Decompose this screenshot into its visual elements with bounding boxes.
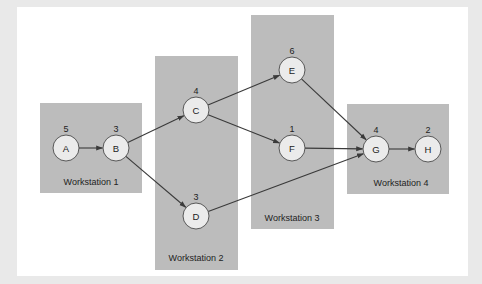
workstation-label: Workstation 3 [265, 213, 320, 223]
node-label: F [289, 143, 295, 154]
edge-F-G [305, 148, 363, 149]
task-time: 6 [289, 46, 294, 56]
task-time: 5 [63, 124, 68, 134]
node-label: A [63, 143, 70, 154]
task-time: 3 [113, 124, 118, 134]
task-time: 4 [373, 125, 378, 135]
task-nodes: A5B3C4D3E6F1G4H2 [53, 46, 441, 229]
workstation-label: Workstation 4 [374, 178, 429, 188]
node-label: C [193, 105, 200, 116]
task-time: 3 [193, 192, 198, 202]
node-label: E [289, 65, 295, 76]
precedence-diagram: Workstation 1Workstation 2Workstation 3W… [0, 0, 482, 284]
node-label: D [193, 211, 200, 222]
task-time: 1 [289, 124, 294, 134]
workstation-label: Workstation 2 [169, 253, 224, 263]
workstation-label: Workstation 1 [64, 177, 119, 187]
node-label: B [113, 143, 119, 154]
node-label: G [372, 144, 379, 155]
node-label: H [425, 144, 432, 155]
task-time: 4 [193, 86, 198, 96]
task-time: 2 [425, 125, 430, 135]
